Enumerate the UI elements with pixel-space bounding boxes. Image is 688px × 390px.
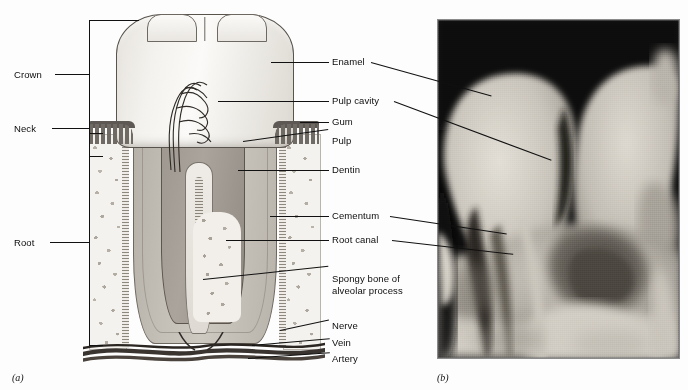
label-pulp: Pulp: [332, 135, 351, 146]
central-groove: [204, 17, 205, 41]
label-root-canal: Root canal: [332, 234, 378, 245]
panel-id-a: (a): [12, 372, 24, 383]
leader-neck: [52, 128, 89, 129]
leader-gum: [300, 122, 329, 123]
label-vein: Vein: [332, 337, 351, 348]
label-enamel: Enamel: [332, 56, 365, 67]
cusp-right: [217, 14, 267, 42]
label-spongy-bone: Spongy bone of alveolar process: [332, 273, 403, 296]
leader-cementum-left: [270, 216, 329, 217]
spongy-bone-pocket: [193, 212, 241, 322]
dental-radiograph: [437, 19, 680, 359]
leader-enamel-left: [271, 62, 329, 63]
label-crown: Crown: [14, 69, 42, 80]
label-cementum: Cementum: [332, 210, 379, 221]
label-pulp-cavity: Pulp cavity: [332, 95, 379, 106]
neurovascular-bundle-pulp: [145, 64, 235, 174]
gingiva-left: [89, 124, 133, 144]
bracket-root: [89, 156, 90, 345]
bracket-cap-crown-end: [89, 133, 103, 134]
tooth-cross-section-illustration: [89, 12, 319, 360]
leader-root-canal-left: [226, 240, 329, 241]
bracket-cap-bottom: [89, 345, 103, 346]
bracket-cap-top: [89, 20, 139, 21]
leader-root: [50, 242, 89, 243]
radiograph-film-grain: [438, 20, 679, 358]
leader-pulp-cavity-left: [218, 101, 329, 102]
tooth-anatomy-figure: Crown Neck Root Enamel Pulp cavity Gum P…: [0, 0, 688, 390]
apical-vessel-bundle: [83, 332, 325, 368]
periodontal-ligament-left: [122, 132, 129, 348]
panel-id-b: (b): [437, 372, 449, 383]
leader-crown: [55, 74, 89, 75]
label-gum: Gum: [332, 116, 353, 127]
bracket-crown: [89, 20, 90, 133]
alveolar-bone-right: [283, 134, 321, 350]
label-artery: Artery: [332, 353, 358, 364]
label-nerve: Nerve: [332, 320, 358, 331]
bracket-cap-neck-end: [89, 156, 103, 157]
bracket-neck: [89, 133, 90, 156]
label-root: Root: [14, 237, 34, 248]
cusp-left: [147, 14, 197, 42]
label-neck: Neck: [14, 123, 36, 134]
label-dentin: Dentin: [332, 164, 360, 175]
leader-dentin: [238, 170, 329, 171]
